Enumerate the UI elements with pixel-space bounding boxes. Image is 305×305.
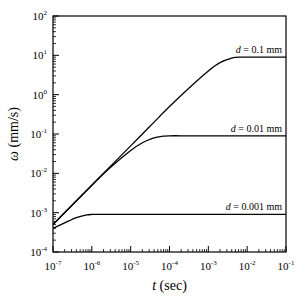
series-labels: d = 0.1 mmd = 0.01 mmd = 0.001 mm bbox=[226, 44, 282, 212]
y-tick-label: 101 bbox=[33, 48, 48, 61]
x-axis-label: t (sec) bbox=[152, 278, 187, 294]
y-tick-label: 10-3 bbox=[30, 206, 47, 219]
y-tick-label: 10-4 bbox=[30, 245, 47, 258]
x-tick-label: 10-3 bbox=[200, 259, 217, 272]
y-tick-label: 100 bbox=[33, 88, 48, 101]
series-curve-2 bbox=[53, 214, 286, 228]
series-label-0: d = 0.1 mm bbox=[236, 44, 282, 55]
y-tick-label: 10-2 bbox=[30, 166, 47, 179]
x-tick-label: 10-2 bbox=[239, 259, 256, 272]
x-tick-label: 10-4 bbox=[161, 259, 178, 272]
y-axis-label: ω (mm/s) bbox=[6, 107, 22, 161]
y-tick-labels: 10-410-310-210-1100101102 bbox=[30, 9, 47, 258]
series-curve-0 bbox=[53, 57, 286, 224]
y-tick-label: 10-1 bbox=[30, 127, 47, 140]
x-tick-labels: 10-710-610-510-410-310-210-1 bbox=[45, 259, 295, 272]
series-label-2: d = 0.001 mm bbox=[226, 201, 282, 212]
series-label-1: d = 0.01 mm bbox=[231, 123, 282, 134]
x-tick-label: 10-5 bbox=[122, 259, 139, 272]
chart: 10-710-610-510-410-310-210-1 10-410-310-… bbox=[0, 0, 305, 305]
x-tick-label: 10-6 bbox=[83, 259, 100, 272]
y-tick-label: 102 bbox=[33, 9, 48, 22]
x-tick-label: 10-7 bbox=[45, 259, 62, 272]
x-tick-label: 10-1 bbox=[278, 259, 295, 272]
